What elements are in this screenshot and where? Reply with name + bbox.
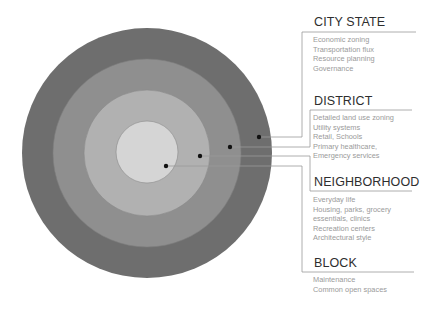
list-item: Everyday life	[313, 195, 391, 205]
list-item: Primary healthcare,	[313, 142, 394, 152]
block-title: BLOCK	[314, 256, 357, 270]
list-item: Architectural style	[313, 233, 391, 243]
neighborhood-title: NEIGHBORHOOD	[314, 175, 419, 189]
list-item: Detailed land use zoning	[313, 113, 394, 123]
list-item: Maintenance	[313, 275, 387, 285]
district-title: DISTRICT	[314, 94, 372, 108]
ring-block	[116, 121, 178, 183]
list-item: Retail, Schools	[313, 132, 394, 142]
list-item: Recreation centers	[313, 224, 391, 234]
district-list: Detailed land use zoning Utility systems…	[313, 113, 394, 161]
dot-district	[228, 145, 232, 149]
list-item: Utility systems	[313, 123, 394, 133]
neighborhood-list: Everyday life Housing, parks, grocery es…	[313, 195, 391, 243]
list-item: Economic zoning	[313, 35, 375, 45]
dot-block	[164, 164, 168, 168]
list-item: Resource planning	[313, 54, 375, 64]
list-item: Common open spaces	[313, 285, 387, 295]
list-item: Housing, parks, grocery	[313, 205, 391, 215]
city-state-list: Economic zoning Transportation flux Reso…	[313, 35, 375, 73]
list-item: Emergency services	[313, 151, 394, 161]
dot-neighborhood	[198, 154, 202, 158]
list-item: Transportation flux	[313, 45, 375, 55]
dot-city-state	[257, 135, 261, 139]
concentric-circles	[22, 28, 272, 278]
list-item: Governance	[313, 64, 375, 74]
list-item: essentials, clinics	[313, 214, 391, 224]
city-state-title: CITY STATE	[314, 15, 385, 29]
block-list: Maintenance Common open spaces	[313, 275, 387, 294]
